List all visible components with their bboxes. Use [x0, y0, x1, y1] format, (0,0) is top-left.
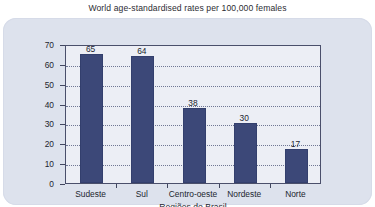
gridline: [66, 66, 320, 67]
y-axis-tick-mark: [60, 85, 65, 86]
plot-area: [65, 45, 321, 184]
bar-value-label: 64: [122, 46, 162, 56]
y-axis-tick-mark: [60, 164, 65, 165]
x-axis-tick-mark: [270, 184, 271, 188]
bar[interactable]: [131, 56, 154, 183]
y-axis-tick-label: 50: [14, 80, 54, 90]
bar[interactable]: [234, 123, 257, 183]
y-axis-tick-label: 70: [14, 40, 54, 50]
y-axis-tick-mark: [60, 144, 65, 145]
bar[interactable]: [285, 149, 308, 183]
gridline: [66, 86, 320, 87]
bar-value-label: 38: [173, 98, 213, 108]
y-axis-tick-label: 60: [14, 60, 54, 70]
y-axis-tick-mark: [60, 124, 65, 125]
y-axis-tick-mark: [60, 105, 65, 106]
x-axis-tick-mark: [116, 184, 117, 188]
x-axis-tick-mark: [219, 184, 220, 188]
chart-panel: Regiões do Brasil 01020304050607065Sudes…: [3, 18, 372, 205]
bar-value-label: 17: [275, 139, 315, 149]
bar-value-label: 65: [71, 44, 111, 54]
bar[interactable]: [80, 54, 103, 183]
y-axis-tick-label: 10: [14, 159, 54, 169]
y-axis-tick-mark: [60, 45, 65, 46]
y-axis-tick-label: 20: [14, 139, 54, 149]
bar[interactable]: [183, 108, 206, 183]
y-axis-tick-mark: [60, 184, 65, 185]
bar-chart-figure: World age-standardised rates per 100,000…: [0, 0, 375, 207]
x-axis-title: Regiões do Brasil: [65, 202, 321, 207]
y-axis-tick-label: 40: [14, 100, 54, 110]
y-axis-tick-label: 30: [14, 119, 54, 129]
y-axis-tick-mark: [60, 65, 65, 66]
x-axis-category-label: Norte: [260, 189, 330, 199]
y-axis-tick-label: 0: [14, 179, 54, 189]
chart-title: World age-standardised rates per 100,000…: [0, 3, 375, 13]
x-axis-tick-mark: [167, 184, 168, 188]
bar-value-label: 30: [224, 113, 264, 123]
